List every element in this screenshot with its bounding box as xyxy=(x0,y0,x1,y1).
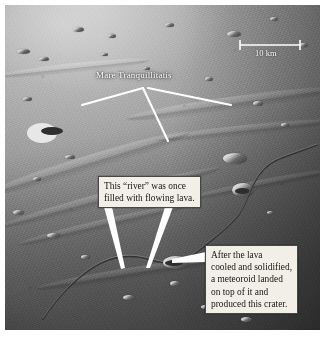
annotation-overlay: 10 km Mare Tranquillitatis This “river” … xyxy=(0,0,329,343)
crater-leader xyxy=(172,252,206,263)
callout-river: This “river” was once filled with flowin… xyxy=(98,176,201,208)
callout-river-line-1: This “river” was once xyxy=(104,180,195,192)
callout-crater-line-1: After the lava xyxy=(211,249,292,261)
callout-crater-line-4: on top of it and xyxy=(211,286,292,298)
lunar-surface-figure: 10 km Mare Tranquillitatis This “river” … xyxy=(0,0,329,343)
river-leader-left xyxy=(104,207,125,269)
callout-crater-line-2: cooled and solidified, xyxy=(211,261,292,273)
callout-crater-line-5: produced this crater. xyxy=(211,298,292,310)
callout-crater: After the lava cooled and solidified, a … xyxy=(205,245,298,314)
river-leader-right xyxy=(146,207,173,268)
callout-river-line-2: filled with flowing lava. xyxy=(104,192,195,204)
callout-crater-line-3: a meteoroid landed xyxy=(211,273,292,285)
